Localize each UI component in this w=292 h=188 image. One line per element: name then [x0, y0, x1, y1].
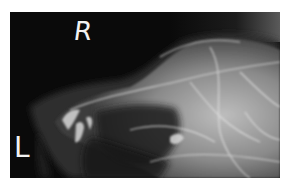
- right-side-marker: R: [72, 18, 94, 44]
- skull-radiograph: [10, 12, 280, 178]
- xray-image: R L: [10, 12, 280, 178]
- left-side-marker: L: [14, 134, 30, 162]
